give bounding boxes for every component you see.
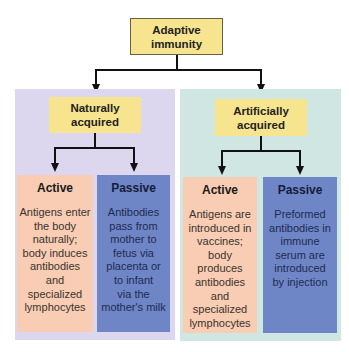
natural-horizontal-connector bbox=[54, 147, 135, 149]
artificial-passive-card: Passive Preformed antibodies in immune s… bbox=[263, 177, 337, 333]
arrow-down-icon bbox=[130, 163, 138, 172]
artificial-active-card: Active Antigens are introduced in vaccin… bbox=[183, 177, 257, 333]
arrow-down-icon bbox=[218, 166, 226, 175]
artificial-active-description: Antigens are introduced in vaccines; bod… bbox=[183, 208, 257, 330]
connector-to-artificial-passive bbox=[299, 150, 301, 167]
arrow-down-icon bbox=[296, 166, 304, 175]
root-node-adaptive-immunity: Adaptive immunity bbox=[130, 18, 223, 55]
connector-to-artificial-active bbox=[221, 150, 223, 167]
artificial-stem-connector bbox=[260, 136, 262, 151]
artificially-acquired-node: Artificially acquired bbox=[215, 99, 307, 136]
natural-passive-card: Passive Antibodies pass from mother to f… bbox=[97, 175, 170, 332]
artificial-passive-description: Preformed antibodies in immune serum are… bbox=[263, 208, 337, 290]
natural-active-card: Active Antigens enter the body naturally… bbox=[17, 175, 93, 332]
artificial-passive-title: Passive bbox=[263, 183, 337, 198]
arrow-down-icon bbox=[51, 163, 59, 172]
connector-to-natural bbox=[95, 69, 97, 85]
root-horizontal-connector bbox=[95, 69, 262, 71]
natural-active-title: Active bbox=[17, 181, 93, 196]
connector-to-natural-active bbox=[54, 147, 56, 164]
natural-passive-description: Antibodies pass from mother to fetus via… bbox=[97, 206, 170, 315]
artificial-active-title: Active bbox=[183, 183, 257, 198]
naturally-acquired-node: Naturally acquired bbox=[49, 97, 141, 133]
connector-to-natural-passive bbox=[133, 147, 135, 164]
natural-active-description: Antigens enter the body naturally; body … bbox=[17, 206, 93, 315]
natural-passive-title: Passive bbox=[97, 181, 170, 196]
artificial-horizontal-connector bbox=[221, 150, 301, 152]
connector-to-artificial bbox=[260, 69, 262, 85]
